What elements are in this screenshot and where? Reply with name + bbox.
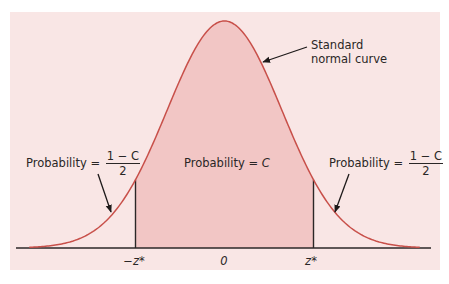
center-label: Probability = C — [184, 158, 270, 170]
axis-label-zero: 0 — [220, 254, 227, 268]
figure: Standard normal curve Probability = 1 − … — [0, 0, 449, 284]
axis-label-lower: −z* — [123, 254, 144, 268]
center-label-symbol: C — [262, 156, 270, 170]
fraction-denominator: 2 — [409, 164, 443, 177]
axis-label-upper: z* — [305, 254, 317, 268]
left-tail-label-text: Probability = — [26, 156, 104, 170]
right-tail-fraction: 1 − C2 — [409, 150, 443, 177]
curve-label-line2: normal curve — [311, 53, 387, 67]
fraction-numerator: 1 − C — [409, 150, 443, 164]
left-tail-label: Probability = 1 − C2 — [26, 150, 140, 177]
center-label-text: Probability = — [184, 156, 262, 170]
curve-label-line1: Standard — [311, 39, 387, 53]
fraction-denominator: 2 — [106, 164, 140, 177]
curve-label: Standard normal curve — [311, 39, 387, 67]
right-tail-label-text: Probability = — [329, 156, 407, 170]
left-tail-fraction: 1 − C2 — [106, 150, 140, 177]
right-tail-label: Probability = 1 − C2 — [329, 150, 443, 177]
fraction-numerator: 1 − C — [106, 150, 140, 164]
